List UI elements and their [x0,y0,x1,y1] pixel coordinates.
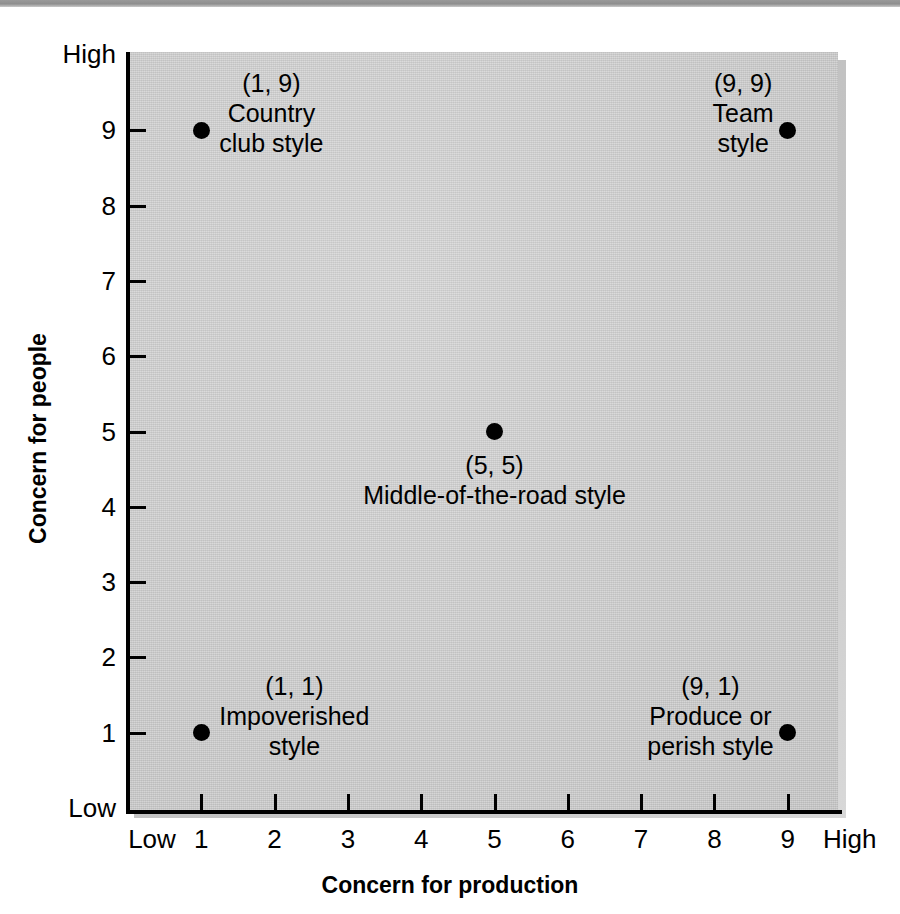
y-tick-5 [130,431,146,434]
point-coordinate-label: (9, 9) [713,68,774,98]
y-tick-3 [130,581,146,584]
x-tick-4 [420,794,423,810]
point-style-label: Impoverished style [219,701,369,761]
x-tick-5 [494,794,497,810]
x-axis-line [126,810,842,814]
x-tick-6 [567,794,570,810]
x-tick-label-2: 2 [267,826,281,852]
point-coordinate-label: (9, 1) [647,671,773,701]
x-tick-label-6: 6 [561,826,575,852]
y-tick-6 [130,355,146,358]
managerial-grid-chart: 123456789 123456789 High Low Low High (1… [0,0,900,914]
data-point-1-1[interactable] [193,724,210,741]
y-axis-low-label: Low [68,795,116,821]
x-tick-8 [713,794,716,810]
point-style-label: Middle-of-the-road style [363,480,626,510]
y-tick-label-4: 4 [102,494,116,520]
point-style-label: Produce or perish style [647,701,773,761]
y-tick-2 [130,656,146,659]
data-point-9-9[interactable] [779,122,796,139]
x-tick-1 [200,794,203,810]
x-tick-label-1: 1 [194,826,208,852]
y-tick-4 [130,506,146,509]
x-tick-9 [787,794,790,810]
x-tick-3 [347,794,350,810]
y-axis-high-label: High [63,41,116,67]
y-tick-9 [130,129,146,132]
y-tick-7 [130,280,146,283]
x-tick-label-3: 3 [341,826,355,852]
point-annotation-9-9: (9, 9)Team style [713,68,774,158]
y-tick-8 [130,205,146,208]
x-axis-low-label: Low [128,826,176,852]
x-tick-label-5: 5 [487,826,501,852]
point-style-label: Team style [713,98,774,158]
y-tick-1 [130,732,146,735]
y-tick-label-2: 2 [102,644,116,670]
point-coordinate-label: (1, 9) [219,68,323,98]
y-tick-label-1: 1 [102,720,116,746]
x-tick-label-4: 4 [414,826,428,852]
x-tick-2 [274,794,277,810]
point-annotation-1-9: (1, 9)Country club style [219,68,323,158]
point-coordinate-label: (5, 5) [363,450,626,480]
data-point-1-9[interactable] [193,122,210,139]
x-axis-high-label: High [823,826,876,852]
point-annotation-5-5: (5, 5)Middle-of-the-road style [363,450,626,510]
x-tick-label-7: 7 [634,826,648,852]
x-axis-title: Concern for production [0,872,900,899]
x-tick-label-8: 8 [707,826,721,852]
y-tick-label-8: 8 [102,193,116,219]
point-style-label: Country club style [219,98,323,158]
x-tick-label-9: 9 [780,826,794,852]
y-tick-label-9: 9 [102,117,116,143]
x-tick-7 [640,794,643,810]
y-tick-label-5: 5 [102,419,116,445]
y-tick-label-7: 7 [102,268,116,294]
y-tick-label-6: 6 [102,343,116,369]
point-annotation-1-1: (1, 1)Impoverished style [219,671,369,761]
point-annotation-9-1: (9, 1)Produce or perish style [647,671,773,761]
y-axis-title: Concern for people [25,309,52,569]
data-point-5-5[interactable] [486,423,503,440]
point-coordinate-label: (1, 1) [219,671,369,701]
y-tick-label-3: 3 [102,569,116,595]
